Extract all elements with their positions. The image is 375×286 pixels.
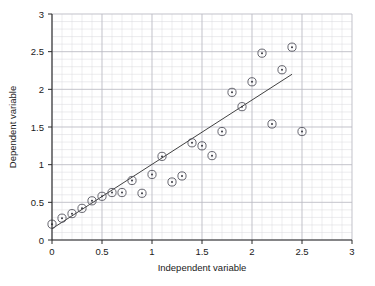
y-tick-label: 2.5 [31,46,44,57]
x-tick-label: 2 [249,246,254,257]
x-tick-label: 3 [349,246,354,257]
scatter-chart-figure: 00.511.522.53 00.511.522.53 Independent … [0,0,375,286]
x-tick-label: 0.5 [95,246,108,257]
y-tick-label: 0 [39,235,44,246]
x-axis-title: Independent variable [158,262,247,273]
x-tick-label: 1 [149,246,154,257]
x-tick-label: 0 [49,246,54,257]
x-tick-label: 2.5 [295,246,308,257]
y-tick-label: 0.5 [31,197,44,208]
y-tick-label: 3 [39,9,44,20]
y-tick-label: 1.5 [31,122,44,133]
x-tick-label: 1.5 [195,246,208,257]
y-tick-label: 2 [39,84,44,95]
y-axis-title: Dependent variable [7,86,18,168]
y-tick-label: 1 [39,159,44,170]
